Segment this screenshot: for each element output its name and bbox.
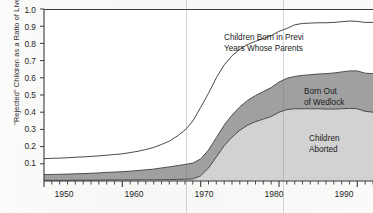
x-tick-label: 1990 [324,189,364,199]
annotation-top-band-line1: Children Born in Previ [224,32,304,43]
chart-container: "Rejected" Children as a Ratio of Live B… [0,0,373,213]
y-axis-ticks [40,9,44,164]
x-tick-label: 1980 [254,189,294,199]
annotation-top-band: Children Born in Previ Years Whose Paren… [224,32,304,54]
annotation-wedlock-line1: Born Out [304,86,344,97]
annotation-aborted-line1: Children [309,133,340,144]
annotation-aborted-line2: Aborted [309,144,340,155]
x-tick-label: 1970 [184,189,224,199]
x-tick-label: 1960 [114,189,154,199]
x-axis-tick-labels: 1950 1960 1970 1980 1990 [0,189,373,205]
x-axis-ticks [44,181,373,187]
annotation-top-band-line2: Years Whose Parents [224,43,304,54]
annotation-aborted-band: Children Aborted [309,133,340,155]
annotation-wedlock-line2: of Wedlock [304,97,344,108]
annotation-wedlock-band: Born Out of Wedlock [304,86,344,108]
x-tick-label: 1950 [44,189,84,199]
